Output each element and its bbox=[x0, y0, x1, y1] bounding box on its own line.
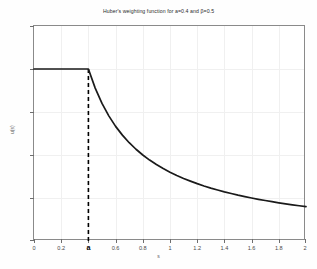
x-tick-label: 0.2 bbox=[48, 245, 74, 251]
y-axis-label: u(s) bbox=[9, 125, 15, 134]
x-tick-label: 0.8 bbox=[130, 245, 156, 251]
x-tick-label: 2 bbox=[292, 245, 317, 251]
x-tick-label: 0.6 bbox=[103, 245, 129, 251]
plot-area: 0 0.5 1 1.5 1/β 2.5 0 0.2 a 0.6 0.8 1 1.… bbox=[33, 25, 305, 240]
chart-figure: Huber's weighting function for a=0.4 and… bbox=[0, 0, 317, 269]
chart-title: Huber's weighting function for a=0.4 and… bbox=[0, 8, 317, 14]
x-tick-label: 1.4 bbox=[211, 245, 237, 251]
x-tick-label: 1.2 bbox=[184, 245, 210, 251]
x-tick-label-a: a bbox=[75, 243, 101, 252]
x-tick-label: 1.6 bbox=[239, 245, 265, 251]
x-tick-label: 1 bbox=[157, 245, 183, 251]
x-tick-label: 0 bbox=[21, 245, 47, 251]
curve-layer bbox=[34, 26, 306, 241]
huber-weighting-curve bbox=[34, 69, 306, 207]
x-axis-label: s bbox=[0, 253, 317, 259]
x-tick-label: 1.8 bbox=[266, 245, 292, 251]
